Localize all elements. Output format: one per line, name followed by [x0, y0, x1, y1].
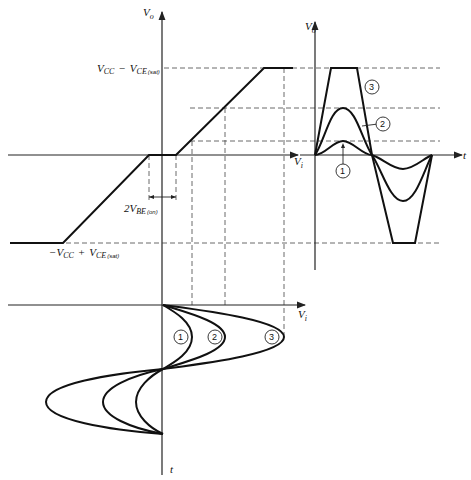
input-2-neg — [103, 369, 163, 434]
vi-label-bottom: Vi — [298, 308, 307, 323]
vo-label-right: Vo — [305, 20, 316, 35]
curve2-number-top: 2 — [380, 119, 385, 129]
curve1-number-bottom: 1 — [178, 332, 183, 342]
neg-sat-label: −VCC+VCE(sat) — [49, 246, 119, 260]
input-waveforms: Vi t 1 2 3 — [8, 305, 307, 475]
vo-label: Vo — [143, 6, 154, 21]
vbe-label: 2VBE(on) — [124, 202, 158, 216]
t-label-right: t — [463, 149, 467, 161]
waveform-1-neg — [372, 155, 432, 169]
input-1-neg — [136, 369, 163, 434]
curve3-number-top: 3 — [369, 82, 374, 92]
input-3-neg — [46, 369, 163, 434]
transfer-characteristic: Vo Vi VCC−VCE(sat) −VCC+VCE(sat) 2VBE(on… — [8, 6, 440, 475]
class-b-transfer-diagram: Vo Vi VCC−VCE(sat) −VCC+VCE(sat) 2VBE(on… — [0, 0, 471, 480]
vi-label-top: Vi — [294, 155, 303, 170]
pointer-arrowhead — [341, 143, 345, 148]
curve1-number-top: 1 — [340, 166, 345, 176]
curve2-number-bottom: 2 — [212, 332, 217, 342]
output-waveforms: Vo t 3 2 1 — [300, 20, 467, 270]
curve3-number-bottom: 3 — [269, 332, 274, 342]
pos-sat-label: VCC−VCE(sat) — [97, 62, 160, 76]
t-label-bottom: t — [170, 463, 174, 475]
